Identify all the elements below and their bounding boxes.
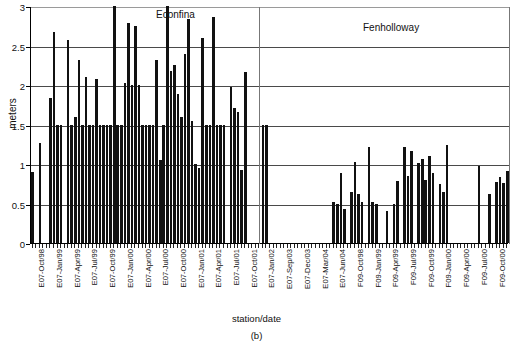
- x-tick-mark: [414, 244, 415, 248]
- x-tick-mark: [117, 244, 118, 248]
- x-tick-mark: [230, 244, 231, 248]
- x-tick-mark: [478, 244, 479, 248]
- bar: [191, 121, 194, 243]
- bar: [230, 87, 233, 243]
- bar: [78, 60, 81, 243]
- x-tick-mark: [442, 244, 443, 248]
- x-tick-mark: [163, 244, 164, 248]
- x-tick-mark: [57, 244, 58, 248]
- bar: [442, 192, 445, 243]
- x-tick-mark: [400, 244, 401, 248]
- x-tick-mark: [301, 244, 302, 248]
- x-tick-mark: [177, 244, 178, 248]
- x-tick-mark: [46, 244, 47, 248]
- x-tick-mark: [60, 244, 61, 248]
- x-tick-mark: [188, 244, 189, 248]
- plot-area: [30, 7, 508, 244]
- x-tick-mark: [251, 244, 252, 248]
- x-tick-mark: [290, 244, 291, 248]
- bar: [233, 108, 236, 243]
- bar: [361, 202, 364, 243]
- bar: [216, 125, 219, 244]
- bar: [417, 163, 420, 243]
- bar: [120, 125, 123, 244]
- x-tick-mark: [149, 244, 150, 248]
- bar: [499, 177, 502, 243]
- bar: [127, 23, 130, 243]
- x-tick-mark: [88, 244, 89, 248]
- x-tick-mark: [471, 244, 472, 248]
- bar: [432, 173, 435, 243]
- x-tick-mark: [85, 244, 86, 248]
- bar: [421, 159, 424, 243]
- x-tick-mark: [365, 244, 366, 248]
- bar: [155, 60, 158, 243]
- x-tick-mark: [180, 244, 181, 248]
- bar: [209, 125, 212, 244]
- y-tick-label: 0: [20, 240, 25, 250]
- bar: [262, 125, 265, 244]
- x-tick-label: F09-Jan/99: [375, 249, 383, 287]
- x-tick-mark: [166, 244, 167, 248]
- y-tick-label: 3: [20, 3, 25, 13]
- x-tick-mark: [425, 244, 426, 248]
- x-tick-mark: [184, 244, 185, 248]
- bar: [173, 65, 176, 243]
- x-tick-mark: [361, 244, 362, 248]
- x-tick-mark: [237, 244, 238, 248]
- bar: [223, 125, 226, 244]
- x-tick-mark: [492, 244, 493, 248]
- x-tick-mark: [435, 244, 436, 248]
- bar: [92, 125, 95, 244]
- x-tick-mark: [120, 244, 121, 248]
- bar: [198, 168, 201, 243]
- bar: [184, 54, 187, 243]
- x-tick-mark: [343, 244, 344, 248]
- y-tick-label: 0.5: [12, 200, 25, 210]
- x-tick-mark: [372, 244, 373, 248]
- x-tick-mark: [379, 244, 380, 248]
- bar: [407, 176, 410, 243]
- bar: [180, 117, 183, 243]
- x-tick-mark: [297, 244, 298, 248]
- x-tick-mark: [92, 244, 93, 248]
- x-tick-mark: [287, 244, 288, 248]
- x-tick-mark: [265, 244, 266, 248]
- x-tick-mark: [81, 244, 82, 248]
- bar: [219, 125, 222, 244]
- bar: [502, 183, 505, 243]
- x-tick-mark: [198, 244, 199, 248]
- x-tick-label: E07-Dec/03: [304, 249, 312, 289]
- x-tick-label: F09-Oct/99: [428, 249, 436, 287]
- bar: [343, 209, 346, 243]
- x-tick-mark: [453, 244, 454, 248]
- x-axis-title: station/date: [0, 313, 513, 324]
- x-tick-mark: [103, 244, 104, 248]
- group-label-fenholloway: Fenholloway: [363, 22, 419, 33]
- x-tick-label: F09-Oct/00: [499, 249, 507, 287]
- x-tick-label: E07-Oct/01: [251, 249, 259, 287]
- x-tick-label: F09-Apr/00: [463, 249, 471, 287]
- x-tick-mark: [49, 244, 50, 248]
- bar: [403, 147, 406, 243]
- x-tick-mark: [333, 244, 334, 248]
- x-tick-mark: [489, 244, 490, 248]
- x-tick-label: E07-Mar/04: [322, 249, 330, 289]
- group-separator: [259, 7, 260, 244]
- bar: [340, 173, 343, 243]
- y-axis-title: meters: [7, 84, 18, 144]
- bar: [81, 125, 84, 244]
- x-tick-mark: [262, 244, 263, 248]
- x-tick-mark: [39, 244, 40, 248]
- x-tick-mark: [304, 244, 305, 248]
- x-tick-mark: [319, 244, 320, 248]
- bar: [53, 32, 56, 243]
- bar: [201, 38, 204, 243]
- x-tick-mark: [106, 244, 107, 248]
- x-tick-mark: [269, 244, 270, 248]
- bar: [240, 170, 243, 243]
- x-tick-mark: [358, 244, 359, 248]
- x-tick-mark: [110, 244, 111, 248]
- x-tick-mark: [481, 244, 482, 248]
- x-tick-mark: [202, 244, 203, 248]
